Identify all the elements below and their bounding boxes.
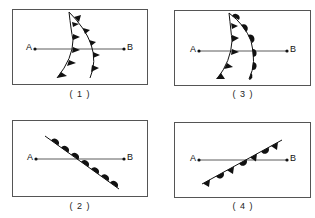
point-b (285, 49, 288, 52)
panel-1: A B (12, 9, 148, 85)
label-a: A (26, 42, 32, 52)
point-b (285, 158, 288, 161)
point-a (197, 49, 200, 52)
panel-3: A B (174, 10, 311, 86)
cold-front-left (57, 12, 73, 78)
front-diagram-4: A B (175, 123, 312, 199)
caption-3: ( 3 ) (223, 89, 263, 99)
label-a: A (190, 44, 196, 54)
label-b: B (127, 152, 133, 162)
front-diagram-3: A B (175, 11, 312, 87)
front-diagram-1: A B (13, 10, 149, 86)
label-a: A (190, 153, 196, 163)
point-a (33, 47, 36, 50)
point-a (34, 157, 37, 160)
label-b: B (290, 153, 296, 163)
cold-front (217, 13, 232, 79)
caption-4: ( 4 ) (223, 201, 263, 211)
point-a (197, 158, 200, 161)
label-b: B (290, 44, 296, 54)
point-b (122, 47, 125, 50)
panel-2: A B (12, 120, 148, 197)
panel-4: A B (174, 122, 311, 198)
warm-front (229, 13, 254, 79)
front-diagram-2: A B (13, 121, 149, 198)
point-b (122, 157, 125, 160)
caption-2: ( 2 ) (60, 201, 100, 211)
caption-1: ( 1 ) (60, 89, 100, 99)
label-b: B (127, 42, 133, 52)
label-a: A (27, 152, 33, 162)
